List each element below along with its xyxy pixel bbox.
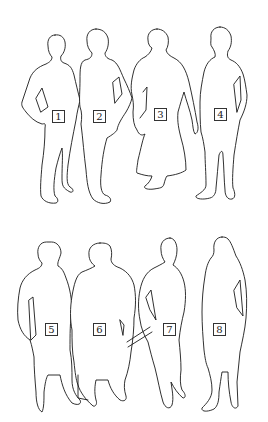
silhouette-7 (139, 238, 186, 408)
figure-label-1: 1 (52, 110, 65, 123)
figure-label-2: 2 (93, 110, 106, 123)
silhouette-1 (22, 35, 80, 203)
figure-label-7: 7 (163, 323, 176, 336)
figure-label-5: 5 (45, 323, 58, 336)
figure-label-6: 6 (93, 323, 106, 336)
silhouettes-diagram (0, 0, 268, 422)
figure-label-3: 3 (154, 108, 167, 121)
figure-label-4: 4 (214, 108, 227, 121)
figure-label-8: 8 (213, 323, 226, 336)
